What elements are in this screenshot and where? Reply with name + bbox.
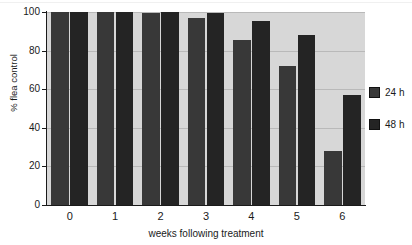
bar — [279, 66, 297, 205]
bar — [324, 151, 342, 205]
bar — [233, 40, 251, 205]
legend-swatch — [369, 119, 380, 130]
x-axis-tick-label: 5 — [277, 210, 317, 223]
y-axis-tick-mark — [42, 89, 47, 90]
bar — [343, 95, 361, 205]
y-axis-tick-mark — [42, 128, 47, 129]
scan-artifact-line — [0, 2, 412, 3]
x-axis-title: weeks following treatment — [47, 228, 365, 240]
y-axis-tick-mark — [42, 166, 47, 167]
bar — [116, 12, 134, 205]
y-axis-line — [46, 11, 47, 206]
x-axis-tick-label: 2 — [141, 210, 181, 223]
x-axis-tick-label: 0 — [50, 210, 90, 223]
legend-label: 48 h — [385, 119, 404, 130]
bar — [161, 12, 179, 205]
bar — [252, 21, 270, 205]
x-axis-line — [46, 205, 366, 206]
bar — [51, 12, 69, 205]
plot-area — [47, 12, 365, 205]
bars-layer — [47, 12, 365, 205]
y-axis-tick-labels: 020406080100 — [0, 0, 40, 245]
x-axis-tick-label: 6 — [322, 210, 362, 223]
bar — [188, 18, 206, 205]
bar — [97, 12, 115, 205]
y-axis-tick-mark — [42, 12, 47, 13]
y-axis-tick-label: 20 — [10, 161, 40, 171]
legend-swatch — [369, 87, 380, 98]
chart-legend: 24 h48 h — [369, 86, 412, 150]
x-axis-tick-labels: 0123456 — [47, 210, 365, 226]
legend-label: 24 h — [385, 87, 404, 98]
x-axis-tick-label: 4 — [231, 210, 271, 223]
y-axis-title: % flea control — [9, 33, 19, 133]
x-axis-tick-label: 3 — [186, 210, 226, 223]
bar — [70, 12, 88, 205]
legend-item: 24 h — [369, 86, 412, 99]
y-axis-tick-label: 0 — [10, 200, 40, 210]
bar — [142, 13, 160, 205]
bar-chart-figure: 020406080100 % flea control 0123456 week… — [0, 0, 412, 245]
x-axis-tick-label: 1 — [95, 210, 135, 223]
bar — [298, 35, 316, 205]
y-axis-tick-mark — [42, 205, 47, 206]
legend-item: 48 h — [369, 118, 412, 131]
bar — [207, 13, 225, 205]
y-axis-tick-label: 100 — [10, 7, 40, 17]
y-axis-tick-mark — [42, 51, 47, 52]
